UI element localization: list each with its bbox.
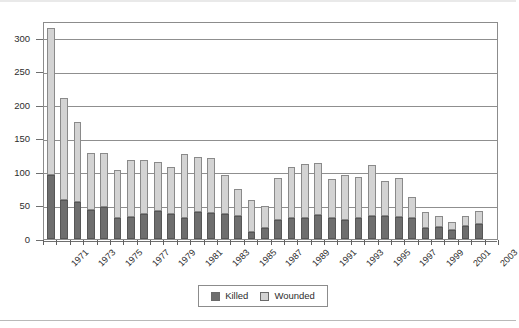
bar-segment-wounded[interactable]: [140, 160, 148, 214]
bar-segment-wounded[interactable]: [435, 216, 443, 227]
bar-segment-wounded[interactable]: [181, 154, 189, 218]
bar-segment-killed[interactable]: [462, 226, 470, 239]
bar-group[interactable]: [462, 21, 470, 239]
bar-segment-wounded[interactable]: [381, 181, 389, 217]
bar-group[interactable]: [395, 21, 403, 239]
bar-group[interactable]: [288, 21, 296, 239]
bar-segment-killed[interactable]: [328, 218, 336, 239]
bar-segment-killed[interactable]: [167, 214, 175, 239]
bar-group[interactable]: [60, 21, 68, 239]
bar-segment-wounded[interactable]: [408, 197, 416, 218]
bar-group[interactable]: [274, 21, 282, 239]
bar-group[interactable]: [475, 21, 483, 239]
legend-entry[interactable]: Wounded: [260, 291, 315, 301]
bar-segment-wounded[interactable]: [234, 189, 242, 215]
bar-group[interactable]: [368, 21, 376, 239]
bar-segment-wounded[interactable]: [60, 98, 68, 200]
bar-segment-wounded[interactable]: [74, 122, 82, 202]
bar-segment-killed[interactable]: [422, 228, 430, 239]
bar-group[interactable]: [355, 21, 363, 239]
bar-segment-wounded[interactable]: [100, 153, 108, 207]
bar-segment-killed[interactable]: [154, 211, 162, 239]
bar-group[interactable]: [154, 21, 162, 239]
bar-group[interactable]: [114, 21, 122, 239]
bar-group[interactable]: [74, 21, 82, 239]
bar-segment-killed[interactable]: [100, 207, 108, 239]
bar-segment-wounded[interactable]: [221, 175, 229, 214]
bar-segment-killed[interactable]: [288, 218, 296, 239]
bar-segment-killed[interactable]: [408, 218, 416, 239]
bar-segment-wounded[interactable]: [261, 206, 269, 228]
bar-segment-killed[interactable]: [475, 224, 483, 239]
bar-segment-killed[interactable]: [314, 215, 322, 239]
bar-group[interactable]: [422, 21, 430, 239]
bar-segment-killed[interactable]: [448, 230, 456, 239]
bar-segment-killed[interactable]: [261, 228, 269, 239]
bar-segment-wounded[interactable]: [475, 211, 483, 224]
bar-group[interactable]: [47, 21, 55, 239]
bar-segment-killed[interactable]: [60, 200, 68, 239]
bar-segment-wounded[interactable]: [248, 200, 256, 232]
bar-segment-killed[interactable]: [274, 220, 282, 239]
bar-segment-wounded[interactable]: [154, 162, 162, 211]
bar-segment-wounded[interactable]: [448, 222, 456, 230]
bar-group[interactable]: [207, 21, 215, 239]
bar-group[interactable]: [341, 21, 349, 239]
bar-group[interactable]: [328, 21, 336, 239]
bar-segment-wounded[interactable]: [207, 158, 215, 213]
bar-group[interactable]: [140, 21, 148, 239]
bar-segment-killed[interactable]: [114, 218, 122, 239]
bar-segment-wounded[interactable]: [395, 178, 403, 217]
bar-segment-wounded[interactable]: [422, 212, 430, 228]
bar-group[interactable]: [181, 21, 189, 239]
bar-group[interactable]: [127, 21, 135, 239]
bar-segment-killed[interactable]: [74, 202, 82, 239]
bar-group[interactable]: [408, 21, 416, 239]
bar-segment-killed[interactable]: [127, 217, 135, 239]
bar-segment-killed[interactable]: [381, 216, 389, 239]
bar-group[interactable]: [167, 21, 175, 239]
bar-segment-wounded[interactable]: [314, 163, 322, 215]
bar-group[interactable]: [314, 21, 322, 239]
bar-segment-killed[interactable]: [435, 227, 443, 239]
bar-group[interactable]: [87, 21, 95, 239]
bar-segment-killed[interactable]: [395, 217, 403, 239]
bar-group[interactable]: [381, 21, 389, 239]
bar-group[interactable]: [448, 21, 456, 239]
bar-segment-wounded[interactable]: [87, 153, 95, 209]
bar-group[interactable]: [234, 21, 242, 239]
bar-segment-wounded[interactable]: [368, 165, 376, 215]
bar-segment-wounded[interactable]: [341, 175, 349, 220]
bar-segment-wounded[interactable]: [127, 160, 135, 217]
legend-entry[interactable]: Killed: [211, 291, 248, 301]
bar-segment-killed[interactable]: [248, 232, 256, 239]
bar-segment-wounded[interactable]: [167, 167, 175, 214]
bar-segment-killed[interactable]: [140, 214, 148, 239]
bar-segment-wounded[interactable]: [114, 170, 122, 218]
bar-segment-killed[interactable]: [355, 218, 363, 239]
bar-segment-killed[interactable]: [87, 210, 95, 240]
bar-segment-killed[interactable]: [368, 216, 376, 239]
bar-segment-wounded[interactable]: [47, 28, 55, 174]
bar-segment-wounded[interactable]: [355, 177, 363, 217]
bar-segment-wounded[interactable]: [274, 178, 282, 220]
bar-segment-killed[interactable]: [221, 214, 229, 239]
bar-segment-killed[interactable]: [207, 213, 215, 239]
bar-segment-killed[interactable]: [234, 216, 242, 239]
bar-group[interactable]: [100, 21, 108, 239]
bar-group[interactable]: [435, 21, 443, 239]
bar-group[interactable]: [221, 21, 229, 239]
bar-segment-wounded[interactable]: [194, 157, 202, 213]
bar-segment-killed[interactable]: [47, 175, 55, 239]
bar-segment-killed[interactable]: [341, 220, 349, 239]
bar-segment-killed[interactable]: [194, 212, 202, 239]
bar-segment-wounded[interactable]: [462, 216, 470, 226]
bar-segment-killed[interactable]: [301, 218, 309, 239]
bar-segment-wounded[interactable]: [301, 164, 309, 218]
bar-segment-killed[interactable]: [181, 218, 189, 239]
bar-group[interactable]: [261, 21, 269, 239]
bar-group[interactable]: [248, 21, 256, 239]
bar-group[interactable]: [301, 21, 309, 239]
bar-segment-wounded[interactable]: [288, 167, 296, 219]
bar-segment-wounded[interactable]: [328, 179, 336, 218]
